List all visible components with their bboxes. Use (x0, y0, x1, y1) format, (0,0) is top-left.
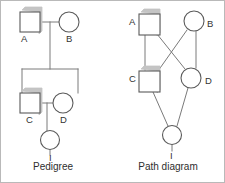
path-node-B-circle-icon (184, 11, 204, 31)
path-node-D-label: D (205, 75, 212, 86)
pedigree-node-B-circle-icon (59, 12, 79, 32)
pedigree-node-C-label: C (26, 114, 33, 125)
path-node-B[interactable]: B (184, 11, 213, 31)
path-node-A-label: A (129, 16, 136, 27)
path-node-C-square-icon (139, 71, 160, 92)
figure-container: A B C D I Pedigree (0, 0, 225, 183)
path-node-A[interactable]: A (129, 9, 160, 36)
path-node-A-square-icon (139, 14, 160, 35)
pedigree-node-D[interactable]: D (53, 93, 73, 125)
panel-pedigree: A B C D I Pedigree (20, 7, 79, 172)
panel-path-diagram: A B C D I Path diagra (129, 9, 213, 172)
path-node-D[interactable]: D (181, 68, 212, 88)
pedigree-node-D-label: D (60, 114, 67, 125)
link-path-C-I (153, 92, 168, 126)
path-node-D-circle-icon (181, 68, 201, 88)
pedigree-node-C[interactable]: C (20, 88, 42, 125)
link-path-B-C-cross (158, 30, 187, 71)
figure-canvas: A B C D I Pedigree (1, 1, 225, 183)
path-node-B-label: B (207, 18, 213, 29)
pedigree-node-C-square-icon (20, 93, 40, 113)
pedigree-node-A[interactable]: A (20, 7, 42, 44)
pedigree-node-D-circle-icon (53, 93, 73, 113)
pedigree-node-A-square-icon (20, 12, 40, 32)
link-path-D-I (177, 88, 188, 126)
path-node-I-circle-icon (163, 126, 182, 145)
pedigree-node-A-label: A (21, 33, 28, 44)
path-diagram-caption: Path diagram (138, 161, 197, 172)
pedigree-node-I[interactable]: I (41, 131, 60, 163)
path-node-C-label: C (129, 73, 136, 84)
pedigree-node-B-label: B (66, 33, 72, 44)
path-node-I[interactable]: I (163, 126, 182, 161)
pedigree-node-I-circle-icon (41, 131, 60, 150)
pedigree-caption: Pedigree (33, 161, 73, 172)
path-node-I-label: I (170, 150, 173, 161)
pedigree-node-B[interactable]: B (59, 12, 79, 44)
